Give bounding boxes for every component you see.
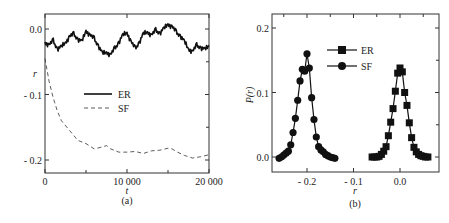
legend-er-marker [338, 46, 346, 54]
legend-sf-label: SF [118, 103, 130, 114]
series-sf-point [308, 94, 315, 101]
series-er-point [392, 88, 399, 95]
series-er-point [408, 134, 415, 141]
legend-sf-marker [338, 62, 346, 70]
series-er-point [403, 102, 410, 109]
series-sf-point [294, 97, 301, 104]
series-er-point [399, 68, 406, 75]
series-sf-point [306, 64, 313, 71]
panel-a-ylabel: r [33, 68, 37, 79]
panel-a-legend: ER SF [84, 89, 131, 114]
panel-b-ylabel: P(r) [244, 86, 256, 104]
y-tick-label: 0.2 [257, 23, 270, 34]
series-sf-point [310, 116, 317, 123]
series-er-point [385, 132, 392, 139]
legend-sf-label: SF [361, 61, 373, 72]
series-sf-point [287, 141, 294, 148]
y-tick-label: - 0.2 [24, 155, 42, 166]
series-er-line [372, 68, 428, 157]
series-sf-point [331, 155, 338, 162]
panel-b-xlabel: r [353, 185, 357, 196]
panel-b-legend: ER SF [327, 45, 374, 72]
x-tick-label: 0 [43, 176, 48, 187]
series-sf-point [313, 133, 320, 140]
series-er-point [401, 89, 408, 96]
series-er-point [383, 143, 390, 150]
x-tick-label: 20 000 [195, 176, 223, 187]
series-er-point [390, 105, 397, 112]
series-sf-point [289, 129, 296, 136]
panel-b-tick-labels: - 0.2- 0.10.00.00.10.2 [257, 23, 407, 187]
panel-b-label: (b) [349, 198, 361, 210]
figure: 010 00020 0000.0- 0.1- 0.2 r t (a) ER SF… [0, 0, 449, 223]
series-er-line [45, 24, 209, 57]
y-tick-label: 0.0 [257, 152, 270, 163]
panel-a-label: (a) [121, 195, 132, 207]
y-tick-label: 0.1 [257, 88, 270, 99]
panel-b: - 0.2- 0.10.00.00.10.2 P(r) r (b) ER SF [244, 14, 439, 210]
panel-b-series [276, 50, 432, 162]
series-er-point [406, 119, 413, 126]
y-tick-label: 0.0 [30, 24, 43, 35]
x-tick-label: - 0.2 [298, 176, 316, 187]
legend-er-label: ER [118, 89, 131, 100]
series-sf-point [285, 148, 292, 155]
series-sf-point [303, 50, 310, 57]
series-er-point [387, 119, 394, 126]
y-tick-label: - 0.1 [24, 90, 42, 101]
panel-a: 010 00020 0000.0- 0.1- 0.2 r t (a) ER SF [24, 14, 223, 207]
series-er-point [424, 154, 431, 161]
series-sf-point [292, 115, 299, 122]
series-sf-point [296, 77, 303, 84]
legend-er-label: ER [361, 45, 374, 56]
x-tick-label: 0.0 [394, 176, 407, 187]
